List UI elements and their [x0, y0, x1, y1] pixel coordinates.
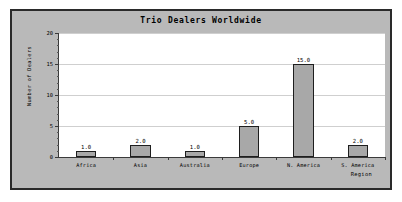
y-axis-tick — [55, 157, 59, 158]
x-axis-tick — [385, 157, 386, 160]
y-axis-minor-tick — [57, 52, 59, 53]
y-axis-minor-tick — [57, 101, 59, 102]
y-axis-minor-tick — [57, 107, 59, 108]
y-axis-tick-label: 0 — [50, 154, 53, 160]
bar[interactable]: 1.0 — [76, 151, 97, 157]
bar-value-label: 15.0 — [297, 57, 310, 63]
y-axis-minor-tick — [57, 145, 59, 146]
y-axis-tick-label: 10 — [47, 92, 54, 98]
plot-area: 05101520 AfricaAsiaAustraliaEuropeN. Ame… — [58, 33, 385, 158]
bar[interactable]: 5.0 — [239, 126, 260, 157]
x-axis-tick — [113, 157, 114, 160]
y-axis-tick — [55, 126, 59, 127]
x-axis-tick-label: Europe — [239, 162, 259, 168]
y-axis-minor-tick — [57, 151, 59, 152]
y-axis-minor-tick — [57, 70, 59, 71]
gridline — [59, 126, 385, 127]
bar[interactable]: 2.0 — [348, 145, 369, 157]
y-axis-tick — [55, 95, 59, 96]
bar[interactable]: 1.0 — [185, 151, 206, 157]
bar-value-label: 5.0 — [244, 119, 254, 125]
bar[interactable]: 15.0 — [293, 64, 314, 157]
y-axis-minor-tick — [57, 138, 59, 139]
x-axis-tick — [276, 157, 277, 160]
y-axis-minor-tick — [57, 114, 59, 115]
y-axis-minor-tick — [57, 58, 59, 59]
x-axis-tick — [168, 157, 169, 160]
y-axis-minor-tick — [57, 39, 59, 40]
y-axis-tick — [55, 33, 59, 34]
gridline — [59, 33, 385, 34]
x-axis-tick — [222, 157, 223, 160]
y-axis-tick — [55, 64, 59, 65]
x-axis-tick-label: Asia — [134, 162, 147, 168]
bar[interactable]: 2.0 — [130, 145, 151, 157]
x-axis-tick-label: N. America — [287, 162, 320, 168]
bar-value-label: 2.0 — [353, 138, 363, 144]
y-axis-minor-tick — [57, 76, 59, 77]
y-axis-tick-label: 15 — [47, 61, 54, 67]
gridline — [59, 64, 385, 65]
y-axis-minor-tick — [57, 132, 59, 133]
bar-value-label: 1.0 — [190, 144, 200, 150]
chart-title: Trio Dealers Worldwide — [12, 16, 390, 25]
bar-value-label: 2.0 — [135, 138, 145, 144]
y-axis-tick-label: 5 — [50, 123, 53, 129]
x-axis-tick-label: S. America — [341, 162, 374, 168]
x-axis-tick — [331, 157, 332, 160]
y-axis-minor-tick — [57, 83, 59, 84]
y-axis-tick-label: 20 — [47, 30, 54, 36]
y-axis-minor-tick — [57, 120, 59, 121]
x-axis-title: Region — [12, 171, 372, 177]
y-axis-title: Number of Dealers — [26, 31, 32, 121]
x-axis-tick-label: Australia — [180, 162, 210, 168]
y-axis-minor-tick — [57, 45, 59, 46]
chart-frame: Trio Dealers Worldwide Number of Dealers… — [10, 9, 392, 190]
gridline — [59, 95, 385, 96]
y-axis-minor-tick — [57, 89, 59, 90]
x-axis-tick-label: Africa — [76, 162, 96, 168]
bar-value-label: 1.0 — [81, 144, 91, 150]
